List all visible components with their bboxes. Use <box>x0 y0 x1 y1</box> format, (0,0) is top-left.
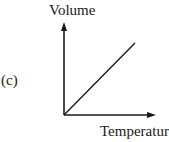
x-axis <box>64 112 156 118</box>
data-line <box>64 43 135 115</box>
y-axis-arrow-icon <box>61 22 67 31</box>
chart-plot <box>0 0 169 142</box>
x-axis-arrow-icon <box>147 112 156 118</box>
y-axis <box>61 22 67 115</box>
